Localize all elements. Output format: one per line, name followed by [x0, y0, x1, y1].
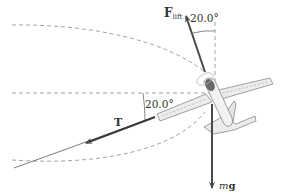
flight-path-lower-arc — [12, 112, 205, 161]
lift-force-arrow — [186, 16, 205, 72]
free-body-diagram: Flift 20.0° 20.0° T mg — [0, 0, 282, 194]
tension-angle-label: 20.0° — [145, 98, 174, 110]
lift-label: Flift — [164, 6, 183, 21]
lift-angle-arc — [193, 31, 215, 33]
tension-label: T — [114, 116, 123, 129]
flight-path-upper-arc — [12, 25, 205, 72]
airplane-right-wing — [214, 78, 273, 100]
lift-angle-label: 20.0° — [190, 12, 219, 24]
weight-label: mg — [219, 180, 235, 191]
